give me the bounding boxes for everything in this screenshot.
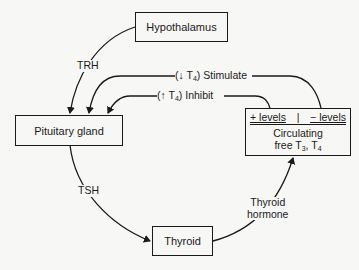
thyroid-node: Thyroid <box>152 226 213 256</box>
levels-row: + levels | − levels <box>250 109 346 125</box>
thyroid-label: Thyroid <box>164 235 201 247</box>
hypothalamus-label: Hypothalamus <box>146 21 216 33</box>
pituitary-node: Pituitary gland <box>15 115 123 146</box>
pituitary-label: Pituitary gland <box>34 125 104 137</box>
circulating-text: Circulating free T3, T4 <box>273 125 323 153</box>
thyroid-hormone-label: Thyroid hormone <box>247 197 288 220</box>
inhibit-label: (↑ T4) Inhibit <box>157 90 213 103</box>
hypothalamus-node: Hypothalamus <box>135 12 228 42</box>
tsh-label: TSH <box>78 185 99 197</box>
trh-label: TRH <box>77 60 99 72</box>
circulating-line1: Circulating <box>273 127 323 139</box>
levels-divider: | <box>297 111 300 123</box>
minus-levels-label: − levels <box>310 111 346 123</box>
circulating-hormone-node: + levels | − levels Circulating free T3,… <box>245 108 351 156</box>
stimulate-label: (↓ T4) Stimulate <box>175 70 247 83</box>
plus-levels-label: + levels <box>250 111 286 123</box>
circulating-line2: free T3, T4 <box>273 139 323 153</box>
